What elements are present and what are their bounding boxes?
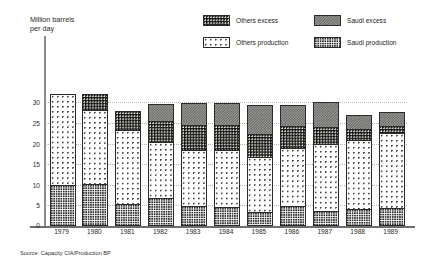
bar-segment-others-production: [83, 110, 107, 183]
legend-swatch-others-production-icon: [203, 37, 230, 48]
bar-segment-others-production: [347, 140, 371, 209]
bar-stack: [82, 94, 108, 226]
bar-segment-saudi-production: [281, 206, 305, 225]
y-axis-tick-label: 25: [26, 121, 40, 128]
x-axis-tick-label: 1981: [120, 228, 135, 235]
bar-segment-saudi-excess: [182, 104, 206, 125]
bar-segment-others-excess: [281, 126, 305, 147]
bar-stack: [247, 105, 273, 226]
bar-group: 1989: [379, 92, 403, 226]
legend-item-saudi-excess: Saudi excess: [314, 15, 386, 26]
bar-segment-others-excess: [314, 127, 338, 144]
bar-segment-others-production: [51, 95, 75, 185]
bar-segment-others-excess: [182, 125, 206, 150]
bar-group: 1983: [181, 92, 205, 226]
legend-label: Saudi production: [347, 39, 397, 46]
bar-segment-others-excess: [215, 125, 239, 151]
bar-group: 1980: [82, 92, 106, 226]
bar-segment-others-excess: [380, 126, 404, 133]
bar-segment-others-excess: [149, 121, 173, 142]
legend-label: Others excess: [236, 17, 278, 24]
bar-segment-others-production: [116, 130, 140, 204]
chart-root: Million barrels per day Others excessSau…: [0, 0, 421, 268]
y-axis-caption: Million barrels per day: [30, 16, 74, 33]
bar-segment-others-production: [380, 133, 404, 208]
bar-stack: [115, 111, 141, 226]
y-axis-tick-label: 10: [26, 182, 40, 189]
bar-segment-saudi-production: [215, 207, 239, 225]
chart-legend: Others excessSaudi excessOthers producti…: [196, 15, 421, 57]
y-axis-tick-label: 30: [26, 100, 40, 107]
legend-label: Saudi excess: [347, 17, 386, 24]
y-axis-tick-label: 5: [26, 203, 40, 210]
x-axis-tick-label: 1986: [285, 228, 300, 235]
source-note: Source: Capacity CIA/Production BP: [20, 250, 111, 256]
bar-stack: [148, 104, 174, 226]
legend-label: Others production: [236, 39, 288, 46]
bar-group: 1985: [247, 92, 271, 226]
bar-segment-saudi-production: [83, 184, 107, 225]
bar-segment-saudi-production: [51, 185, 75, 225]
bar-stack: [214, 103, 240, 226]
bar-group: 1982: [148, 92, 172, 226]
bar-stack: [280, 105, 306, 226]
legend-item-saudi-production: Saudi production: [314, 37, 397, 48]
bar-group: 1979: [50, 92, 74, 226]
x-axis-tick-label: 1987: [317, 228, 332, 235]
legend-swatch-others-excess-icon: [203, 15, 230, 26]
plot-area: 051015202530 197919801981198219831984198…: [45, 92, 407, 226]
x-axis-tick-label: 1989: [383, 228, 398, 235]
x-axis-tick-label: 1982: [153, 228, 168, 235]
bar-segment-saudi-production: [380, 208, 404, 225]
bar-stack: [346, 115, 372, 226]
bar-stack: [313, 102, 339, 226]
bar-segment-others-production: [215, 150, 239, 207]
bar-segment-saudi-excess: [248, 106, 272, 134]
bar-segment-saudi-excess: [215, 104, 239, 125]
y-axis-tick-label: 15: [26, 162, 40, 169]
bar-segment-saudi-production: [182, 206, 206, 225]
bar-group: 1981: [115, 92, 139, 226]
bar-segment-others-excess: [347, 129, 371, 140]
bar-group: 1984: [214, 92, 238, 226]
x-axis-tick-label: 1980: [87, 228, 102, 235]
bar-stack: [379, 112, 405, 226]
y-axis-tick-label: 20: [26, 141, 40, 148]
x-axis-tick-label: 1979: [54, 228, 69, 235]
bar-segment-saudi-excess: [281, 106, 305, 126]
bar-segment-saudi-production: [314, 211, 338, 225]
bar-segment-saudi-excess: [149, 105, 173, 121]
bar-group: 1987: [313, 92, 337, 226]
bar-segment-others-excess: [248, 134, 272, 156]
x-axis-tick-label: 1983: [186, 228, 201, 235]
legend-swatch-saudi-excess-icon: [314, 15, 341, 26]
bar-segment-others-production: [149, 142, 173, 198]
bar-series: 1979198019811982198319841985198619871988…: [45, 92, 407, 226]
bar-segment-saudi-excess: [347, 116, 371, 129]
bar-segment-others-excess: [83, 95, 107, 111]
bar-segment-saudi-production: [149, 198, 173, 225]
bar-group: 1988: [346, 92, 370, 226]
y-axis-tick-label: 0: [26, 223, 40, 230]
x-axis-tick-label: 1988: [350, 228, 365, 235]
bar-segment-others-production: [248, 157, 272, 213]
bar-group: 1986: [280, 92, 304, 226]
x-axis-tick-label: 1985: [252, 228, 267, 235]
bar-segment-others-production: [314, 144, 338, 212]
bar-segment-saudi-excess: [314, 103, 338, 127]
bar-segment-others-excess: [116, 112, 140, 130]
bar-stack: [181, 103, 207, 226]
bar-segment-saudi-production: [116, 204, 140, 225]
bar-segment-others-production: [281, 148, 305, 207]
bar-segment-saudi-production: [248, 212, 272, 225]
bar-segment-others-production: [182, 150, 206, 206]
legend-swatch-saudi-production-icon: [314, 37, 341, 48]
x-axis-tick-label: 1984: [219, 228, 234, 235]
legend-item-others-production: Others production: [203, 37, 288, 48]
bar-segment-saudi-excess: [380, 113, 404, 126]
legend-item-others-excess: Others excess: [203, 15, 278, 26]
bar-stack: [50, 94, 76, 226]
bar-segment-saudi-production: [347, 209, 371, 225]
